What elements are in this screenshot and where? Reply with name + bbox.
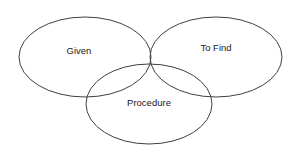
- venn-diagram-canvas: Given To Find Procedure: [0, 0, 296, 159]
- venn-diagram-svg: Given To Find Procedure: [0, 0, 296, 159]
- label-to-find: To Find: [200, 42, 231, 53]
- ellipse-to-find[interactable]: [150, 17, 282, 97]
- label-procedure: Procedure: [127, 97, 171, 108]
- ellipse-given[interactable]: [19, 17, 151, 97]
- label-given: Given: [67, 45, 92, 56]
